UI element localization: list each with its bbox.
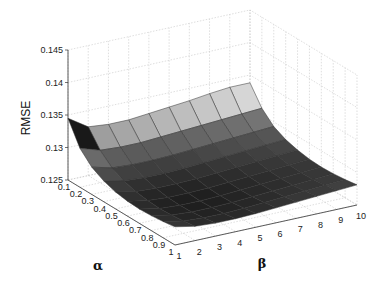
z-tick-label: 0.145 <box>40 45 63 55</box>
beta-tick-label: 9 <box>338 215 343 225</box>
beta-tick-label: 7 <box>298 224 303 234</box>
alpha-tick-label: 0.1 <box>58 182 71 192</box>
beta-tick-label: 8 <box>318 220 323 230</box>
alpha-tick-label: 0.6 <box>117 218 130 228</box>
alpha-tick-label: 0.3 <box>82 196 95 206</box>
beta-axis-label: β <box>258 256 267 271</box>
alpha-tick-label: 0.7 <box>129 225 142 235</box>
beta-tick-label: 2 <box>197 247 202 257</box>
alpha-tick-label: 1 <box>168 247 173 257</box>
beta-tick-label: 10 <box>356 211 366 221</box>
beta-tick-label: 4 <box>237 238 242 248</box>
surface-plot: 0.1250.130.1350.140.1450.10.20.30.40.50.… <box>0 0 391 288</box>
z-tick-label: 0.135 <box>40 110 63 120</box>
alpha-tick-label: 0.2 <box>70 189 83 199</box>
beta-tick-label: 3 <box>217 242 222 252</box>
alpha-tick-label: 0.4 <box>93 204 106 214</box>
z-axis-label: RMSE <box>19 101 33 136</box>
alpha-tick-label: 0.5 <box>105 211 118 221</box>
alpha-axis-label: α <box>93 258 103 273</box>
beta-tick-label: 5 <box>257 233 262 243</box>
beta-tick-label: 1 <box>176 251 181 261</box>
z-tick-label: 0.13 <box>45 143 63 153</box>
z-tick-label: 0.14 <box>45 78 63 88</box>
alpha-tick-label: 0.8 <box>141 233 154 243</box>
alpha-tick-label: 0.9 <box>153 240 166 250</box>
beta-tick-label: 6 <box>278 229 283 239</box>
rmse-surface <box>68 83 357 227</box>
